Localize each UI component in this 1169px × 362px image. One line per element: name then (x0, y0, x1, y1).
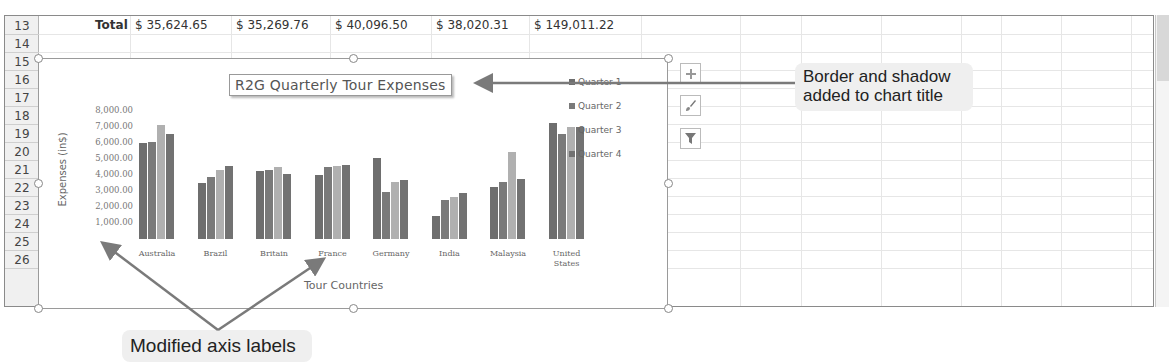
bar[interactable] (567, 127, 575, 239)
bar[interactable] (148, 142, 156, 239)
y-axis-tick-label: 3,000.00 (77, 185, 133, 195)
bar-group (490, 111, 526, 239)
bar[interactable] (373, 158, 381, 239)
y-axis-tick-label: 4,000.00 (77, 169, 133, 179)
resize-handle-top-right[interactable] (664, 54, 673, 63)
paintbrush-icon (684, 99, 697, 112)
bar[interactable] (157, 125, 165, 239)
bar-group (198, 111, 234, 239)
grid-line (801, 16, 802, 306)
x-axis-tick-label: Malaysia (478, 249, 538, 259)
bar[interactable] (432, 216, 440, 239)
bar[interactable] (549, 123, 557, 239)
bar[interactable] (283, 174, 291, 239)
total-q2-cell[interactable]: $ 35,269.76 (236, 16, 309, 34)
legend-item[interactable]: Quarter 4 (569, 149, 649, 159)
bar[interactable] (441, 200, 449, 239)
bar[interactable] (499, 182, 507, 239)
x-axis-title[interactable]: Tour Countries (304, 279, 383, 292)
legend-swatch-icon (569, 127, 575, 133)
bar[interactable] (315, 175, 323, 239)
bar[interactable] (139, 143, 147, 239)
resize-handle-top-left[interactable] (34, 54, 43, 63)
resize-handle-bottom-left[interactable] (34, 304, 43, 313)
bar-group (256, 111, 292, 239)
total-year-cell[interactable]: $ 149,011.22 (534, 16, 614, 34)
legend-item[interactable]: Quarter 2 (569, 101, 649, 111)
legend-item[interactable]: Quarter 1 (569, 77, 649, 87)
y-axis-tick-label: 6,000.00 (77, 137, 133, 147)
filter-icon (684, 132, 697, 145)
row-header[interactable]: 24 (5, 215, 39, 233)
bar[interactable] (198, 183, 206, 239)
bar[interactable] (265, 170, 273, 239)
bar-group (315, 111, 351, 239)
y-axis-tick-label: 5,000.00 (77, 153, 133, 163)
bar[interactable] (490, 187, 498, 239)
resize-handle-bottom-right[interactable] (664, 304, 673, 313)
total-q3-cell[interactable]: $ 40,096.50 (335, 16, 408, 34)
row-header[interactable]: 14 (5, 35, 39, 53)
bar[interactable] (517, 179, 525, 239)
x-axis-tick-label: Brazil (186, 249, 246, 259)
chart-elements-button[interactable] (680, 63, 701, 84)
row-header[interactable]: 20 (5, 143, 39, 161)
total-label[interactable]: Total (95, 16, 128, 34)
callout-axis-labels: Modified axis labels (122, 330, 312, 362)
chart-area[interactable]: R2G Quarterly Tour Expenses Expenses (in… (38, 58, 668, 309)
plot-area[interactable] (139, 111, 589, 239)
bar[interactable] (166, 134, 174, 239)
resize-handle-right[interactable] (664, 179, 673, 188)
grid-line (961, 16, 962, 306)
legend-swatch-icon (569, 151, 575, 157)
bar[interactable] (216, 170, 224, 239)
row-header[interactable]: 13 (5, 17, 39, 35)
bar[interactable] (391, 182, 399, 239)
chart-styles-button[interactable] (680, 95, 701, 116)
bar[interactable] (450, 197, 458, 239)
row-header[interactable]: 26 (5, 251, 39, 269)
resize-handle-bottom[interactable] (349, 304, 358, 313)
bar[interactable] (256, 171, 264, 239)
y-axis-tick-label: 8,000.00 (77, 105, 133, 115)
row-header[interactable]: 19 (5, 125, 39, 143)
bar[interactable] (382, 192, 390, 239)
chart-filters-button[interactable] (680, 128, 701, 149)
y-axis-tick-label: 2,000.00 (77, 201, 133, 211)
row-header[interactable]: 17 (5, 89, 39, 107)
y-axis-tick-label: 7,000.00 (77, 121, 133, 131)
y-axis-title[interactable]: Expenses (in$) (57, 125, 68, 215)
grid-line (1061, 16, 1062, 306)
legend-item[interactable]: Quarter 3 (569, 125, 649, 135)
scrollbar-thumb[interactable] (1157, 15, 1169, 81)
bar[interactable] (342, 165, 350, 239)
bar[interactable] (225, 166, 233, 239)
total-q1-cell[interactable]: $ 35,624.65 (135, 16, 208, 34)
bar[interactable] (576, 127, 584, 239)
row-header[interactable]: 21 (5, 161, 39, 179)
row-header[interactable]: 18 (5, 107, 39, 125)
bar[interactable] (558, 134, 566, 239)
x-axis-tick-label: Australia (127, 249, 187, 259)
bar[interactable] (508, 152, 516, 239)
chart-title[interactable]: R2G Quarterly Tour Expenses (229, 74, 452, 96)
bar[interactable] (333, 166, 341, 239)
bar[interactable] (207, 177, 215, 239)
row-header[interactable]: 23 (5, 197, 39, 215)
resize-handle-top[interactable] (349, 54, 358, 63)
vertical-scrollbar[interactable] (1155, 15, 1169, 307)
resize-handle-left[interactable] (34, 179, 43, 188)
bar[interactable] (324, 167, 332, 239)
bar[interactable] (459, 193, 467, 239)
row-header[interactable]: 16 (5, 71, 39, 89)
x-axis-tick-label: Britain (244, 249, 304, 259)
bar-group (432, 111, 468, 239)
plus-icon (685, 68, 697, 80)
legend-label: Quarter 4 (578, 149, 621, 159)
bar[interactable] (400, 180, 408, 239)
grid-line (1131, 16, 1132, 306)
row-header[interactable]: 25 (5, 233, 39, 251)
bar[interactable] (274, 167, 282, 239)
grid-line (740, 16, 741, 306)
total-q4-cell[interactable]: $ 38,020.31 (436, 16, 509, 34)
